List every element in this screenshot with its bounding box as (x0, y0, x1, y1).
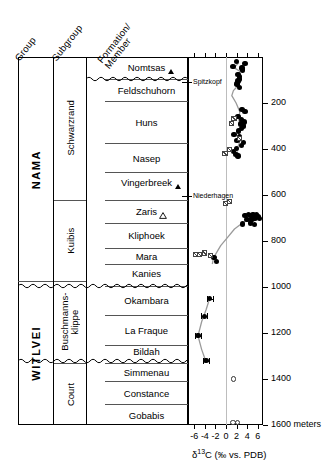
okambara-base-unconformity (18, 282, 188, 290)
x-axis-title: δ13C (‰ vs. PDB) (192, 448, 266, 460)
formation-cell-la-fraque: La Fraque (105, 315, 188, 345)
y-tick (263, 195, 268, 196)
subgroup-boundary (54, 200, 86, 201)
data-point-crossed-square (222, 151, 227, 156)
subgroup-cell-schwarzrand: Schwarzrand (54, 57, 86, 200)
data-point-crossed-square (227, 199, 232, 204)
formation-cell-vingerbreek: Vingerbreek (105, 172, 188, 193)
x-tick-top (205, 53, 206, 57)
error-bar-cap (207, 313, 208, 319)
data-point-filled (230, 64, 235, 69)
formation-cell-huns: Huns (105, 101, 188, 144)
formation-cell-gobabis: Gobabis (105, 404, 188, 425)
annotation-spitzkopf: Spitzkopf (193, 78, 222, 85)
data-point-crossed-square (208, 253, 213, 258)
formation-label: Zaris (136, 206, 157, 217)
formation-label: Mara (136, 251, 158, 262)
group-cell-witlvei: WITLVEI (18, 281, 53, 425)
zero-reference-line (226, 57, 227, 425)
formation-cell-mara: Mara (105, 248, 188, 264)
y-tick-label: 1000 (271, 281, 291, 291)
y-tick-label: 1400 (271, 373, 291, 383)
formation-label: Huns (135, 117, 157, 128)
data-point-crossed-square (229, 121, 234, 126)
isotope-plot (188, 57, 263, 425)
x-tick (247, 425, 248, 429)
x-tick-top (194, 53, 195, 57)
error-bar-cap (201, 333, 202, 339)
formation-label: Kanies (132, 268, 161, 279)
y-tick-label: 1200 (271, 327, 291, 337)
stratigraphic-column: NAMAWITLVEISchwarzrandKuibisBuschmanns-​… (18, 57, 188, 425)
formation-label: Bildah (133, 346, 159, 357)
formation-label: Nomtsas (128, 62, 165, 73)
x-tick-label: 6 (248, 431, 268, 441)
formation-label: Simmenau (124, 367, 169, 378)
annotation-leader-line (182, 196, 192, 197)
data-point-filled (235, 153, 240, 158)
data-point-filled (240, 221, 245, 226)
ash-bed-triangle-icon (160, 213, 166, 218)
formation-label: Feldschuhorn (118, 85, 176, 96)
x-tick (194, 425, 195, 429)
y-tick (263, 425, 268, 426)
y-tick (263, 379, 268, 380)
x-tick (215, 425, 216, 429)
error-bar-cap (209, 358, 210, 364)
data-point-filled (237, 85, 242, 90)
subgroup-cell-kuibis: Kuibis (54, 200, 86, 282)
x-tick-top (247, 53, 248, 57)
x-tick (226, 425, 227, 429)
subgroup-cell-buschmanns: Buschmanns-​klippe (54, 281, 86, 363)
y-tick (263, 241, 268, 242)
y-tick (263, 333, 268, 334)
group-cell-nama: NAMA (18, 57, 53, 281)
formation-cell-zaris: Zaris (105, 200, 188, 223)
chemostratigraphy-figure: Group Subgroup Formation/ Member NAMAWIT… (0, 0, 327, 468)
y-tick (263, 287, 268, 288)
annotation-leader-line (182, 82, 192, 83)
x-tick (205, 425, 206, 429)
data-point-filled (203, 358, 208, 363)
formation-label: Constance (124, 388, 169, 399)
formation-cell-kliphoek: Kliphoek (105, 223, 188, 248)
data-point-crossed-square (202, 250, 207, 255)
y-tick (263, 149, 268, 150)
subgroup-formation-divider (86, 57, 87, 425)
formation-cell-okambara: Okambara (105, 286, 188, 315)
data-point-open (231, 376, 236, 381)
x-tick-top (226, 53, 227, 57)
subgroup-cell-court: Court (54, 363, 86, 425)
error-bar-cap (213, 296, 214, 302)
formation-label: Kliphoek (128, 230, 164, 241)
y-tick-label: 800 (271, 235, 286, 245)
formation-label: Gobabis (129, 410, 164, 421)
y-tick-label: 200 (271, 97, 286, 107)
formation-label: Okambara (124, 295, 168, 306)
y-tick (263, 103, 268, 104)
x-tick (258, 425, 259, 429)
data-point-filled (214, 259, 219, 264)
formation-label: Vingerbreek (121, 177, 172, 188)
formation-label: La Fraque (125, 325, 168, 336)
x-tick (237, 425, 238, 429)
annotation-niederhagen: Niederhagen (193, 192, 233, 199)
y-tick-label: 1600 meters (271, 419, 321, 429)
formation-label: Nasep (133, 153, 160, 164)
ash-bed-triangle-icon (175, 184, 181, 189)
y-tick-label: 600 (271, 189, 286, 199)
nomtsas-base-unconformity (86, 75, 188, 83)
simmenau-base-unconformity (18, 357, 188, 365)
x-tick-top (258, 53, 259, 57)
y-tick-label: 400 (271, 143, 286, 153)
formation-cell-constance: Constance (105, 381, 188, 404)
formation-cell-kanies: Kanies (105, 264, 188, 281)
ash-bed-triangle-icon (168, 69, 174, 74)
formation-cell-simmenau: Simmenau (105, 363, 188, 381)
x-tick-top (215, 53, 216, 57)
formation-cell-nasep: Nasep (105, 143, 188, 172)
x-tick-top (237, 53, 238, 57)
data-point-crossed-square (237, 136, 242, 141)
data-point-filled (257, 216, 262, 221)
